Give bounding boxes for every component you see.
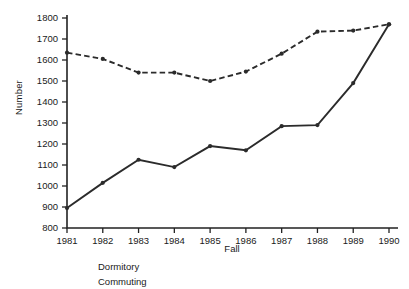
data-point-commuting <box>387 22 391 26</box>
data-point-commuting <box>244 69 248 73</box>
data-point-commuting <box>208 79 212 83</box>
data-point-dormitory <box>280 124 284 128</box>
y-axis-tick-label: 1800 <box>37 12 58 23</box>
y-axis-tick-label: 1600 <box>37 54 58 65</box>
x-axis-tick-label: 1984 <box>164 235 185 246</box>
x-axis-tick-label: 1985 <box>200 235 221 246</box>
data-point-dormitory <box>244 148 248 152</box>
data-point-dormitory <box>208 144 212 148</box>
chart-series-layer <box>65 22 391 210</box>
x-axis-tick-label: 1990 <box>378 235 399 246</box>
x-axis-tick-label: 1988 <box>307 235 328 246</box>
y-axis-tick-label: 1500 <box>37 75 58 86</box>
y-axis-tick-label: 1100 <box>38 159 58 170</box>
y-axis-tick-label: 1200 <box>37 138 58 149</box>
y-axis-tick-label: 1700 <box>37 33 58 44</box>
series-line-commuting <box>67 24 389 81</box>
data-point-dormitory <box>65 206 69 210</box>
data-point-dormitory <box>136 158 140 162</box>
x-axis-tick-label: 1987 <box>271 235 292 246</box>
y-axis-tick-labels: 8009001000110012001300140015001600170018… <box>37 12 58 233</box>
data-point-dormitory <box>172 165 176 169</box>
chart-plot-area: 8009001000110012001300140015001600170018… <box>0 0 409 289</box>
x-axis-tick-label: 1989 <box>343 235 364 246</box>
data-point-commuting <box>65 51 69 55</box>
data-point-commuting <box>280 52 284 56</box>
legend-item-commuting: Commuting <box>98 276 147 287</box>
y-axis-tick-label: 1300 <box>37 117 58 128</box>
x-axis-tick-label: 1981 <box>56 235 77 246</box>
data-point-commuting <box>351 29 355 33</box>
data-point-commuting <box>101 57 105 61</box>
series-line-dormitory <box>67 24 389 208</box>
data-point-dormitory <box>101 181 105 185</box>
data-point-commuting <box>136 71 140 75</box>
x-axis-tick-label: 1983 <box>128 235 149 246</box>
y-axis-tick-label: 1000 <box>37 180 58 191</box>
data-point-commuting <box>172 71 176 75</box>
y-axis-tick-label: 800 <box>42 222 58 233</box>
x-axis-tick-label: 1982 <box>92 235 113 246</box>
y-axis-tick-label: 1400 <box>37 96 58 107</box>
data-point-dormitory <box>315 123 319 127</box>
chart-axes <box>67 15 398 228</box>
data-point-dormitory <box>351 81 355 85</box>
data-point-commuting <box>315 30 319 34</box>
y-axis-tick-label: 900 <box>42 201 58 212</box>
axis-lines <box>67 15 398 228</box>
legend-item-dormitory: Dormitory <box>98 261 139 272</box>
line-chart: Number 800900100011001200130014001500160… <box>0 0 409 289</box>
x-axis-title: Fall <box>224 243 239 254</box>
